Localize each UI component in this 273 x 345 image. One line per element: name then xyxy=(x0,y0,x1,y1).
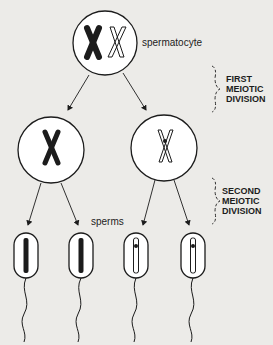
first-division-line-3: DIVISION xyxy=(226,94,266,104)
second-division-label: SECOND MEIOTIC DIVISION xyxy=(222,186,262,216)
sperm-1 xyxy=(14,233,38,342)
spermatocyte-label: spermatocyte xyxy=(142,38,202,48)
second-division-line-2: MEIOTIC xyxy=(222,196,262,206)
secondary-cell-right xyxy=(131,115,197,181)
second-division-line-3: DIVISION xyxy=(222,206,262,216)
sperms-label: sperms xyxy=(91,217,124,227)
second-division-brace xyxy=(212,178,220,224)
sperm-2 xyxy=(69,233,93,342)
first-division-label: FIRST MEIOTIC DIVISION xyxy=(226,74,266,104)
sperm-3 xyxy=(124,233,148,342)
secondary-cell-left xyxy=(18,117,84,183)
first-division-brace xyxy=(212,66,220,112)
second-division-line-1: SECOND xyxy=(222,186,262,196)
first-division-line-1: FIRST xyxy=(226,74,266,84)
spermatocyte-cell xyxy=(73,11,137,75)
sperm-4 xyxy=(181,233,205,342)
meiosis-diagram xyxy=(0,0,273,345)
first-division-line-2: MEIOTIC xyxy=(226,84,266,94)
